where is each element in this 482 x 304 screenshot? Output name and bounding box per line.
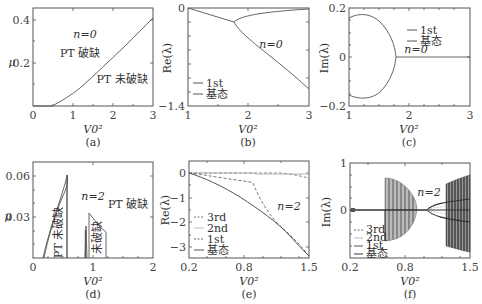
panel-b: 1 2 3 0 −1.4 Re(λ) V0² (b) n=0 1st 基态: [158, 2, 312, 149]
panel-caption: (e): [241, 288, 256, 301]
x-tick: 1: [70, 109, 77, 122]
panel-f: 0.2 0.8 1.5 1 0 Im(λ) V0² (f) n=2 3rd 2n…: [320, 157, 479, 301]
annotation-broken: PT 破缺: [108, 197, 148, 211]
annotation-unbroken-small: 未破缺: [90, 221, 104, 254]
y-tick: 0.06: [6, 170, 31, 183]
annotation-unbroken: PT 未破缺: [96, 72, 147, 86]
panel-c: 1 2 3 0.2 0 −0.2 Im(λ) V0² (c) n=0 1st 基…: [318, 2, 474, 149]
legend-label: 基态: [366, 247, 388, 260]
legend-label: 基态: [420, 35, 442, 48]
panel-caption: (a): [85, 136, 100, 149]
annotation-n: n=0: [73, 28, 96, 41]
y-tick: 0.4: [13, 14, 31, 27]
x-tick: 0.8: [396, 261, 414, 274]
y-tick: 0: [339, 51, 346, 64]
panel-a: 0 1 2 3 0.2 0.4 μ V0² (a) n=0 PT 破缺 PT 未…: [8, 8, 156, 149]
x-axis-label: V0²: [400, 275, 419, 288]
y-tick: −0.2: [319, 100, 346, 113]
y-tick: −1.4: [158, 100, 185, 113]
legend-label: 基态: [207, 244, 229, 257]
x-tick: 2: [406, 109, 413, 122]
annotation-n: n=2: [417, 186, 440, 199]
x-tick: 0.2: [180, 261, 198, 274]
x-axis-label: V0²: [83, 123, 102, 136]
y-axis-label: Im(λ): [320, 197, 333, 227]
x-tick: 1.5: [300, 261, 318, 274]
x-axis-label: V0²: [238, 123, 257, 136]
y-tick: 0: [340, 204, 347, 217]
annotation-unbroken: PT 未破缺: [51, 207, 65, 258]
x-tick: 0: [30, 109, 37, 122]
x-tick: 1: [346, 109, 353, 122]
x-tick: 1: [90, 261, 97, 274]
annotation-n: n=2: [81, 190, 104, 203]
figure: 0 1 2 3 0.2 0.4 μ V0² (a) n=0 PT 破缺 PT 未…: [0, 0, 482, 304]
x-tick: 0.2: [341, 261, 359, 274]
legend: 3rd 2nd 1st 基态: [354, 223, 388, 260]
y-tick: −3: [170, 241, 186, 254]
panel-caption: (f): [404, 288, 417, 301]
x-axis-label: V0²: [239, 275, 258, 288]
legend: 3rd 2nd 1st 基态: [194, 211, 229, 257]
panel-caption: (d): [85, 288, 101, 301]
panel-d: 0 1 2 0.03 0.06 μ V0² (d) n=2 PT 破缺 PT 未…: [4, 162, 156, 301]
legend-label: 基态: [206, 88, 228, 101]
dense-band-2: [446, 175, 470, 252]
panel-caption: (b): [240, 136, 256, 149]
annotation-n: n=2: [277, 200, 300, 213]
x-tick: 3: [306, 109, 313, 122]
x-axis-label: V0²: [399, 123, 418, 136]
x-tick: 2: [150, 261, 157, 274]
legend: 1st 基态: [193, 77, 228, 101]
y-axis-label: Im(λ): [318, 43, 331, 73]
x-tick: 2: [245, 109, 252, 122]
panel-e: 0.2 0.8 1.5 0 −1 −2 −3 Re(λ) V0² (e) n=2…: [159, 161, 318, 301]
y-axis-label: μ: [8, 56, 15, 69]
x-tick: 3: [467, 109, 474, 122]
x-tick: 2: [110, 109, 117, 122]
x-tick: 0.8: [235, 261, 253, 274]
y-axis-label: Re(λ): [161, 43, 174, 73]
y-tick: 0: [178, 2, 185, 15]
panel-caption: (c): [402, 136, 417, 149]
x-tick: 1: [185, 109, 192, 122]
x-tick: 3: [150, 109, 157, 122]
x-tick: 1.5: [461, 261, 479, 274]
y-axis-label: Re(λ): [159, 195, 172, 225]
x-tick: 0: [30, 261, 37, 274]
y-tick: −2: [170, 216, 186, 229]
annotation-broken: PT 破缺: [60, 46, 100, 60]
y-tick: 0.2: [329, 2, 347, 15]
y-tick: 1: [340, 157, 347, 170]
y-tick: −1: [170, 192, 186, 205]
x-axis-label: V0²: [83, 275, 102, 288]
y-tick: 0: [179, 167, 186, 180]
y-axis-label: μ: [4, 210, 11, 223]
annotation-n: n=0: [259, 38, 282, 51]
